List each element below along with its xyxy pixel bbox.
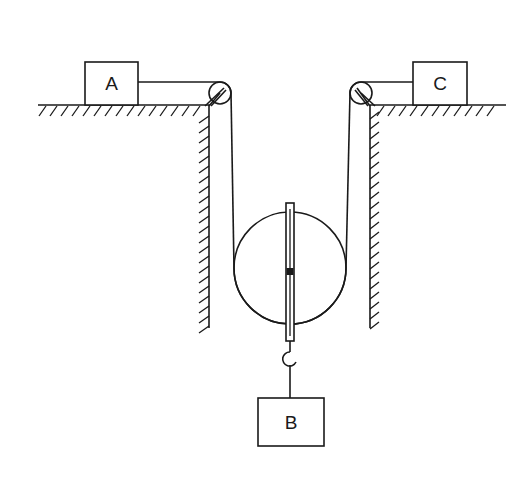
left-ground xyxy=(38,105,210,116)
block-a: A xyxy=(85,62,138,105)
block-a-label: A xyxy=(105,73,118,94)
spring-scale xyxy=(286,203,294,341)
left-wall xyxy=(199,105,209,333)
right-wall xyxy=(370,105,379,329)
right-ground xyxy=(370,105,506,116)
block-b: B xyxy=(258,398,324,446)
hook xyxy=(283,341,296,366)
block-c: C xyxy=(413,62,467,105)
left-fixed-pulley xyxy=(205,82,231,106)
scale-indicator xyxy=(287,268,294,275)
block-c-label: C xyxy=(433,73,447,94)
right-fixed-pulley xyxy=(350,82,375,106)
block-b-label: B xyxy=(285,412,298,433)
pulley-diagram: A C xyxy=(0,0,524,504)
